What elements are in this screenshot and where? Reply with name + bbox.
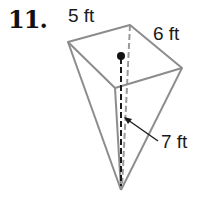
label-6ft: 6 ft: [153, 23, 179, 45]
label-7ft: 7 ft: [161, 131, 187, 153]
label-5ft: 5 ft: [68, 5, 94, 27]
hidden-edge: [122, 25, 130, 188]
lateral-edge-right: [121, 68, 182, 190]
center-point: [117, 52, 125, 60]
lateral-edge-left: [68, 42, 121, 190]
